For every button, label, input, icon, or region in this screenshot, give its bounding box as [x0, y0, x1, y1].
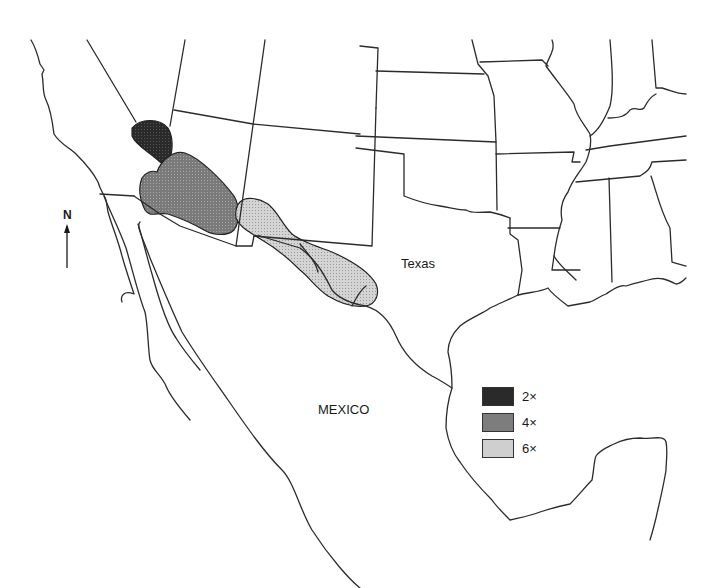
ia-mo-border [480, 60, 548, 66]
label-mexico: MEXICO [318, 402, 369, 417]
ks-ok-border [356, 136, 496, 142]
tn-ms-al-border [576, 160, 686, 182]
legend: 2× 4× 6× [482, 383, 537, 461]
label-texas: Texas [401, 256, 435, 271]
legend-swatch-2x [482, 387, 514, 406]
legend-label-4x: 4× [522, 415, 537, 430]
legend-label-2x: 2× [522, 389, 537, 404]
la-ms-border [552, 256, 580, 270]
legend-item-2x: 2× [482, 383, 537, 409]
map-canvas [0, 0, 715, 588]
boundaries [31, 40, 686, 588]
ne-ks-border [376, 71, 484, 74]
nv-ut-border [170, 40, 185, 126]
legend-swatch-4x [482, 413, 514, 432]
mo-ar-border [496, 152, 580, 162]
legend-swatch-6x [482, 439, 514, 458]
il-in-border [590, 40, 612, 136]
ok-panhandle [356, 148, 510, 218]
baja-west-coast [104, 196, 190, 420]
us-mexico-border [134, 196, 452, 388]
tx-la-border [510, 218, 522, 295]
range-regions [132, 121, 378, 307]
california-coast [31, 40, 134, 302]
gulf-coast-north [518, 278, 686, 306]
baja-east-coast [138, 224, 200, 370]
region-4x [140, 152, 239, 234]
legend-item-4x: 4× [482, 409, 537, 435]
mississippi-river [546, 40, 591, 280]
north-arrow: N [58, 208, 78, 270]
legend-label-6x: 6× [522, 441, 537, 456]
ca-nv-border [87, 40, 136, 122]
ky-tn-border [586, 136, 686, 150]
in-oh-border [652, 40, 686, 94]
al-ga-border [651, 176, 686, 266]
texas-gulf-coast [446, 295, 667, 540]
legend-item-6x: 6× [482, 435, 537, 461]
us-mexico-border-west [100, 194, 134, 196]
in-ky-ohio-river [608, 94, 656, 118]
co-ks-border [360, 46, 378, 108]
four-corners-line [174, 110, 360, 134]
mo-west-border [472, 40, 497, 210]
ms-al-border [609, 178, 612, 282]
north-label: N [63, 208, 72, 222]
region-2x [132, 121, 172, 165]
